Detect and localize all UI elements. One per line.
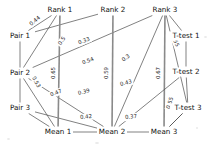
graph-node-rank3[interactable]: Rank 3	[151, 5, 179, 15]
edge-weight-value: 0.37	[125, 113, 138, 120]
scan-speck	[204, 36, 207, 38]
edge-weight-label: 0.3	[119, 52, 132, 65]
graph-node-mean2[interactable]: Mean 2	[98, 127, 126, 137]
edge-weights-layer: 0.440.50.330.540.30.550.530.650.590.670.…	[27, 14, 181, 122]
graph-edge	[166, 16, 186, 103]
graph-canvas: 0.440.50.330.540.30.550.530.650.590.670.…	[0, 0, 220, 145]
edge-weight-value: 0.67	[155, 67, 161, 79]
graph-node-rank2[interactable]: Rank 2	[99, 5, 127, 15]
graph-edge	[29, 114, 50, 127]
edge-weight-label: 0.5	[56, 34, 68, 48]
graph-node-mean1[interactable]: Mean 1	[44, 127, 72, 137]
edge-weight-value: 0.65	[50, 67, 56, 79]
network-diagram: 0.440.50.330.540.30.550.530.650.590.670.…	[0, 0, 220, 145]
graph-edge	[169, 16, 181, 31]
node-label: Pair 1	[10, 31, 30, 40]
scan-speck	[7, 138, 10, 140]
node-label: T-test 3	[174, 103, 202, 112]
graph-node-pair2[interactable]: Pair 2	[6, 68, 34, 78]
edge-weight-label: 0.65	[50, 66, 57, 81]
graph-node-pair1[interactable]: Pair 1	[6, 31, 34, 41]
edge-weight-label: 0.59	[103, 66, 110, 81]
edge-weight-label: 0.54	[80, 55, 96, 67]
edge-weight-value: 0.43	[119, 78, 132, 87]
node-label: Pair 3	[10, 103, 30, 112]
node-label: Mean 2	[99, 127, 125, 136]
scan-speck	[95, 142, 99, 144]
graph-edge	[35, 14, 98, 32]
scan-speck	[196, 127, 198, 129]
node-label: Pair 2	[10, 68, 30, 77]
edge-weight-value: 0.42	[80, 113, 93, 120]
edge-weight-label: 0.67	[155, 66, 162, 81]
graph-node-pair3[interactable]: Pair 3	[6, 103, 34, 113]
graph-node-mean3[interactable]: Mean 3	[150, 127, 178, 137]
graph-edge	[58, 16, 60, 127]
node-label: T-test 2	[172, 67, 200, 76]
graph-node-ttest3[interactable]: T-test 3	[170, 103, 206, 113]
edge-weight-label: 0.42	[78, 113, 93, 121]
edge-weight-value: 0.59	[103, 66, 109, 79]
graph-node-ttest2[interactable]: T-test 2	[168, 67, 204, 77]
graph-node-ttest1[interactable]: T-test 1	[168, 31, 204, 41]
node-label: Rank 1	[48, 5, 73, 14]
node-label: Rank 2	[101, 5, 126, 14]
graph-edge	[170, 114, 183, 127]
graph-edge	[164, 16, 165, 127]
edge-weight-label: 0.47	[48, 87, 64, 99]
node-label: T-test 1	[172, 31, 200, 40]
graph-node-rank1[interactable]: Rank 1	[46, 5, 74, 15]
node-label: Mean 1	[45, 127, 71, 136]
node-label: Mean 3	[151, 127, 177, 136]
graph-edge	[186, 78, 187, 103]
edge-weight-label: 0.37	[123, 113, 138, 121]
edge-weight-label: 0.39	[76, 87, 92, 98]
node-label: Rank 3	[153, 5, 178, 14]
graph-edge	[112, 16, 113, 127]
